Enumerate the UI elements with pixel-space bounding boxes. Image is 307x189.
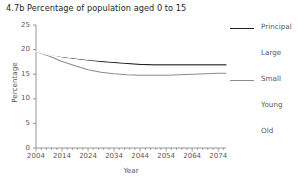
legend-swatch-principal [230, 28, 254, 29]
x-axis-tick-label: 2024 [75, 152, 101, 160]
legend-label-small: Small [261, 74, 281, 83]
x-axis-tick-label: 2044 [127, 152, 153, 160]
chart-legend: PrincipalLargeSmallYoungOld [228, 22, 307, 147]
y-axis-tick-label: 25 [6, 21, 30, 29]
y-axis-tick-label: 0 [6, 144, 30, 152]
legend-swatch-large [230, 54, 254, 55]
x-axis-title: Year [36, 166, 226, 175]
chart-series-group [36, 52, 226, 76]
legend-label-young: Young [261, 100, 283, 109]
x-axis-ticks [36, 148, 223, 152]
y-axis-tick-label: 20 [6, 45, 30, 53]
legend-swatch-old [230, 132, 254, 133]
y-axis-title: Percentage [10, 55, 19, 111]
x-axis-tick-label: 2054 [153, 152, 179, 160]
legend-item-old[interactable]: Old [228, 126, 307, 140]
legend-item-young[interactable]: Young [228, 100, 307, 114]
chart-axes [33, 25, 226, 152]
legend-swatch-small [230, 80, 254, 81]
x-axis-tick-label: 2074 [205, 152, 231, 160]
series-line-young [36, 52, 226, 61]
chart-figure: 4.7b Percentage of population aged 0 to … [0, 0, 307, 189]
x-axis-tick-label: 2014 [49, 152, 75, 160]
legend-item-principal[interactable]: Principal [228, 22, 307, 36]
x-axis-tick-label: 2064 [179, 152, 205, 160]
legend-item-small[interactable]: Small [228, 74, 307, 88]
legend-label-old: Old [261, 126, 273, 135]
legend-label-principal: Principal [261, 22, 292, 31]
x-axis-tick-label: 2004 [23, 152, 49, 160]
x-axis-tick-label: 2034 [101, 152, 127, 160]
legend-swatch-young [230, 106, 254, 107]
y-axis-tick-label: 5 [6, 119, 30, 127]
legend-item-large[interactable]: Large [228, 48, 307, 62]
legend-label-large: Large [261, 48, 281, 57]
